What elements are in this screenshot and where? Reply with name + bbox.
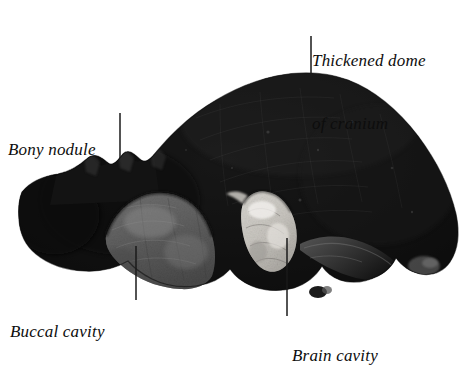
label-buccal-cavity: Buccal cavity [10, 279, 105, 369]
label-brain-cavity: Brain cavity [292, 303, 378, 369]
label-bony-nodule: Bony nodule [8, 97, 96, 202]
detached-fragment-highlight [322, 286, 332, 294]
label-brain-cavity-line1: Brain cavity [292, 345, 378, 366]
label-thickened-dome: Thickened dome of cranium [312, 8, 426, 176]
label-bony-nodule-line1: Bony nodule [8, 139, 96, 160]
label-buccal-cavity-line1: Buccal cavity [10, 321, 105, 342]
label-thickened-dome-line2: of cranium [312, 113, 426, 134]
label-thickened-dome-line1: Thickened dome [312, 50, 426, 71]
